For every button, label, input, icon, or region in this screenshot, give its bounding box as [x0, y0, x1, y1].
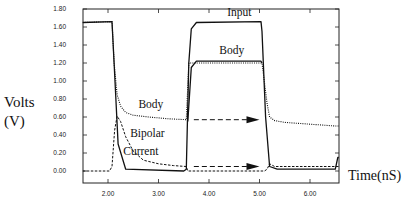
axis-ticks: 0.000.200.400.600.801.001.201.401.601.80…: [53, 5, 339, 197]
x-axis-title: Time(nS): [348, 168, 401, 184]
y-axis-title-line1: Volts: [4, 93, 35, 112]
x-tick-label: 4.00: [203, 190, 216, 197]
annotation-body: Body: [138, 98, 163, 111]
annotation-body: Body: [219, 44, 244, 57]
arrow-annotations: [194, 116, 260, 170]
annotation-input: Input: [227, 6, 252, 19]
x-tick-label: 3.00: [152, 190, 165, 197]
y-tick-label: 1.60: [53, 23, 66, 30]
y-tick-label: 1.80: [53, 5, 66, 12]
chart-canvas: 0.000.200.400.600.801.001.201.401.601.80…: [0, 0, 407, 202]
series-body-dotted: [83, 22, 339, 126]
y-tick-label: 0.40: [53, 131, 66, 138]
arrow-head-icon: [247, 163, 260, 170]
y-tick-label: 0.80: [53, 95, 66, 102]
y-tick-label: 1.00: [53, 77, 66, 84]
y-tick-label: 1.40: [53, 41, 66, 48]
y-tick-label: 0.20: [53, 149, 66, 156]
series-bipolar-current-dashed: [83, 116, 339, 171]
data-series: [83, 22, 339, 171]
annotation-current: Current: [123, 145, 159, 157]
series-body-solid: [188, 61, 262, 121]
x-tick-label: 6.00: [304, 190, 317, 197]
y-tick-label: 0.60: [53, 113, 66, 120]
y-tick-label: 0.00: [53, 167, 66, 174]
y-tick-label: 1.20: [53, 59, 66, 66]
x-tick-label: 5.00: [253, 190, 266, 197]
series-input-solid: [83, 22, 339, 171]
arrow-head-icon: [247, 116, 260, 123]
annotation-bipolar: Bipolar: [130, 127, 165, 140]
y-axis-title-line2: (V): [4, 112, 35, 131]
x-tick-label: 2.00: [102, 190, 115, 197]
y-axis-title: Volts (V): [4, 93, 35, 131]
